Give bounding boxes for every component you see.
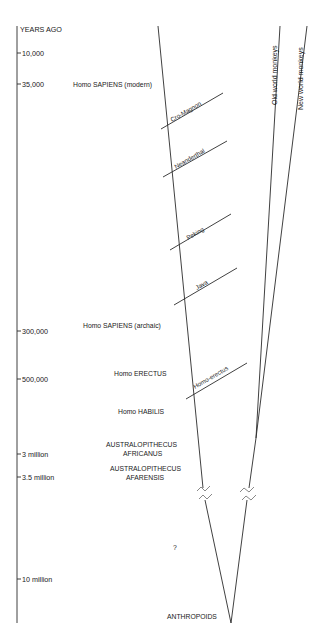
label-unknown: ? [173,544,177,551]
label-sapiens-archaic: Homo SAPIENS (archaic) [83,322,161,330]
tick-label: 10 million [22,575,52,584]
label-sapiens-modern: Homo SAPIENS (modern) [73,81,152,89]
branch-label: Cro-Magnon [169,99,203,123]
axis-tick: 3 million [17,450,48,459]
tick-label: 3 million [22,450,48,459]
label-australopithecus-afarensis-line1: AUSTRALOPITHECUS [110,465,181,472]
branch-label: Neanderthal [173,147,206,170]
axis-tick: 35,000 [17,80,44,89]
label-new-world-monkeys: New world monkeys [297,47,305,110]
tick-label: 300,000 [22,327,48,336]
axis-tick: 3.5 million [17,473,54,482]
tick-label: 3.5 million [22,473,54,482]
break-symbol [197,486,212,499]
axis-tick: 500,000 [17,375,48,384]
branch-label: Peking [185,225,205,241]
branch-cro-magnon: Cro-Magnon [161,93,223,129]
time-axis: YEARS AGO 10,000 35,000 300,000 500,000 … [17,25,62,623]
label-australopithecus-africanus-line2: AFRICANUS [123,450,163,457]
axis-title: YEARS AGO [20,25,62,34]
monkey-stem-lower [231,500,247,623]
tick-label: 500,000 [22,375,48,384]
label-homo-erectus: Homo ERECTUS [114,370,167,377]
tick-label: 10,000 [22,49,44,58]
monkey-lineages: Old world monkeys New world monkeys [231,26,307,623]
label-australopithecus-africanus-line1: AUSTRALOPITHECUS [106,441,177,448]
label-old-world-monkeys: Old world monkeys [271,45,279,105]
label-anthropoids: ANTHROPOIDS [167,613,217,620]
axis-tick: 10,000 [17,49,44,58]
hominid-line-upper [158,26,203,488]
tick-label: 35,000 [22,80,44,89]
break-symbol [240,487,256,500]
side-branches: Cro-Magnon Neanderthal Peking Java Homo-… [161,93,247,399]
label-australopithecus-afarensis-line2: AFARENSIS [126,474,165,481]
branch-peking: Peking [170,214,231,250]
hominid-lineage [158,26,231,623]
species-labels: Homo SAPIENS (modern) Homo SAPIENS (arch… [73,81,217,620]
branch-neanderthal: Neanderthal [163,141,227,177]
monkey-stem-upper [249,438,256,488]
hominid-line-lower [205,500,231,623]
evolution-timeline-diagram: YEARS AGO 10,000 35,000 300,000 500,000 … [0,0,325,631]
axis-tick: 10 million [17,575,52,584]
branch-homo-erectus: Homo-erectus [186,363,247,399]
label-homo-habilis: Homo HABILIS [118,408,165,415]
axis-tick: 300,000 [17,327,48,336]
